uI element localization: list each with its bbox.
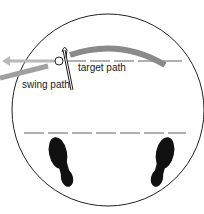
target-path-label: target path	[78, 62, 126, 73]
swing-path-incoming	[0, 66, 48, 78]
circle-boundary	[12, 14, 204, 206]
swing-path-label: swing path	[22, 79, 70, 90]
golf-ball	[55, 57, 63, 65]
left-footprint-icon	[46, 135, 75, 188]
golf-swing-diagram: target path swing path	[0, 0, 204, 214]
